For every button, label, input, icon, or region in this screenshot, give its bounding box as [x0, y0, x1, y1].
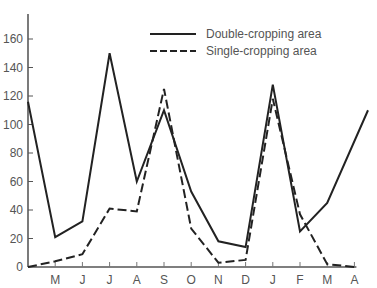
x-tick-label: N: [214, 273, 223, 287]
line-chart: 020406080100120140160 MJJASONDJFMA Doubl…: [0, 0, 377, 288]
single-cropping-line: [28, 89, 354, 267]
y-axis: 020406080100120140160: [3, 14, 33, 274]
x-tick-label: M: [322, 273, 332, 287]
x-tick-label: S: [160, 273, 168, 287]
double-cropping-line: [28, 53, 368, 247]
x-tick-label: M: [50, 273, 60, 287]
y-tick-label: 20: [10, 232, 24, 246]
x-tick-label: A: [350, 273, 358, 287]
x-tick-label: J: [270, 273, 276, 287]
y-tick-label: 40: [10, 203, 24, 217]
x-tick-label: J: [107, 273, 113, 287]
legend: Double-cropping areaSingle-cropping area: [150, 27, 322, 58]
x-tick-label: J: [79, 273, 85, 287]
x-tick-label: D: [241, 273, 250, 287]
y-tick-label: 160: [3, 32, 23, 46]
x-tick-label: O: [187, 273, 196, 287]
legend-label: Double-cropping area: [206, 27, 322, 41]
y-tick-label: 100: [3, 118, 23, 132]
y-tick-label: 60: [10, 175, 24, 189]
legend-label: Single-cropping area: [206, 44, 317, 58]
x-axis: MJJASONDJFMA: [28, 262, 358, 287]
x-tick-label: A: [133, 273, 141, 287]
series-lines: [28, 53, 368, 267]
y-tick-label: 80: [10, 146, 24, 160]
y-tick-label: 140: [3, 61, 23, 75]
x-tick-label: F: [296, 273, 303, 287]
chart: 020406080100120140160 MJJASONDJFMA Doubl…: [0, 0, 377, 288]
y-tick-label: 0: [16, 260, 23, 274]
y-tick-label: 120: [3, 89, 23, 103]
